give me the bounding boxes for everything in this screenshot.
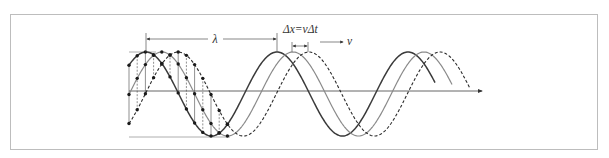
particle-point: [127, 63, 130, 66]
particle-point: [136, 77, 139, 80]
particle-point: [144, 50, 147, 53]
particle-point: [177, 50, 180, 53]
particle-point: [185, 54, 188, 57]
particle-point: [193, 63, 196, 66]
particle-point: [127, 93, 130, 96]
particle-point: [152, 54, 155, 57]
particle-point: [127, 122, 130, 125]
delta-x-equation: Δx=vΔt: [282, 23, 318, 35]
particle-point: [226, 134, 229, 137]
particle-point: [177, 91, 180, 94]
particle-points: [127, 50, 229, 137]
velocity-label: v: [347, 35, 353, 47]
particle-point: [193, 121, 196, 124]
particle-point: [209, 134, 212, 137]
particle-point: [136, 54, 139, 57]
particle-point: [209, 93, 212, 96]
particle-point: [168, 53, 171, 56]
particle-point: [218, 109, 221, 112]
particle-point: [201, 77, 204, 80]
particle-point: [152, 76, 155, 79]
particle-point: [226, 122, 229, 125]
wave-t0-curve: [129, 52, 435, 136]
wave-t2-curve: [129, 52, 470, 136]
wave-curves: [129, 52, 470, 136]
particle-point: [136, 108, 139, 111]
particle-point: [193, 92, 196, 95]
particle-point: [201, 131, 204, 134]
particle-point: [160, 50, 163, 53]
particle-point: [201, 108, 204, 111]
particle-point: [144, 63, 147, 66]
particle-point: [209, 122, 212, 125]
wave-figure-svg: λ Δx=vΔt v: [0, 0, 609, 158]
particle-point: [168, 75, 171, 78]
particle-point: [160, 62, 163, 65]
wavelength-label: λ: [211, 32, 217, 46]
particle-point: [177, 62, 180, 65]
transverse-wave-diagram: λ Δx=vΔt v: [0, 0, 609, 158]
particle-point: [218, 131, 221, 134]
particle-point: [185, 107, 188, 110]
particle-point: [144, 92, 147, 95]
particle-point: [185, 76, 188, 79]
